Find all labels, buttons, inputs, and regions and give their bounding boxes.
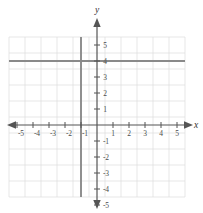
y-tick-label: 4 — [103, 57, 107, 66]
x-axis-arrow-left — [7, 121, 16, 128]
x-tick-label: 4 — [159, 129, 163, 138]
y-tick-label: -4 — [103, 185, 109, 194]
x-tick-label: 1 — [111, 129, 115, 138]
y-tick-label: 3 — [103, 73, 107, 82]
y-tick-label: -5 — [103, 201, 109, 210]
x-tick-label: -4 — [34, 129, 40, 138]
x-tick-labels: -5 -4 -3 -2 -1 1 2 3 4 5 — [18, 129, 179, 138]
x-axis-label: x — [193, 120, 199, 130]
y-axis-label: y — [94, 5, 100, 15]
y-tick-label: 1 — [103, 105, 107, 114]
x-tick-label: 2 — [127, 129, 131, 138]
y-tick-label: -2 — [103, 153, 109, 162]
x-tick-label: -2 — [66, 129, 72, 138]
y-tick-label: -1 — [103, 137, 109, 146]
x-axis-arrow-right — [184, 121, 193, 128]
axis-arrowheads — [7, 18, 193, 209]
x-tick-label: -3 — [50, 129, 56, 138]
x-tick-label: 5 — [175, 129, 179, 138]
x-tick-label: 3 — [143, 129, 147, 138]
axes — [11, 22, 190, 205]
x-tick-label: -5 — [18, 129, 24, 138]
graph-canvas: -5 -4 -3 -2 -1 1 2 3 4 5 5 4 3 2 1 -1 -2… — [0, 0, 203, 213]
y-tick-label: -3 — [103, 169, 109, 178]
coordinate-plane-figure: -5 -4 -3 -2 -1 1 2 3 4 5 5 4 3 2 1 -1 -2… — [0, 0, 203, 213]
x-tick-label: -1 — [82, 129, 88, 138]
y-tick-label: 5 — [103, 41, 107, 50]
y-axis-arrow-up — [93, 18, 100, 27]
y-tick-label: 2 — [103, 89, 107, 98]
